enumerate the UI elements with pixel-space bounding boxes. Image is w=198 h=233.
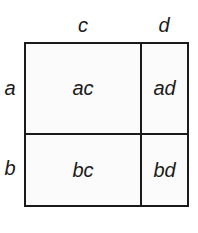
row-label-a: a [0, 78, 20, 98]
cell-ad: ad [142, 44, 187, 133]
cell-bc: bc [26, 135, 140, 205]
area-grid: ac ad bc bd [24, 42, 189, 207]
cell-ac: ac [26, 44, 140, 133]
column-label-c: c [72, 15, 94, 35]
column-label-d: d [153, 15, 175, 35]
row-label-b: b [0, 158, 20, 178]
cell-bd: bd [142, 135, 187, 205]
